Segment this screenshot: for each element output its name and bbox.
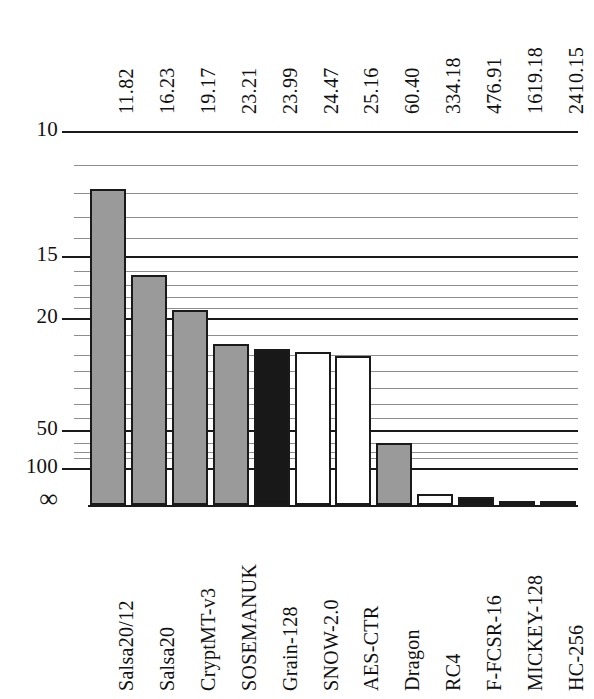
y-axis-tick-mark: [74, 355, 88, 356]
y-axis-tick-label: ∞: [2, 488, 58, 509]
bar: [458, 497, 494, 505]
y-axis-tick-mark: [62, 468, 88, 470]
bar: [376, 443, 412, 505]
y-axis-tick-label: 10: [2, 119, 58, 140]
y-axis-tick-mark: [74, 297, 88, 298]
y-axis-tick-mark: [74, 404, 88, 405]
y-axis-tick-mark: [74, 271, 88, 272]
y-axis-tick-label: 50: [2, 418, 58, 439]
y-axis-tick-mark: [62, 430, 88, 432]
y-axis-tick-mark: [62, 318, 88, 320]
y-axis-tick-mark: [74, 238, 88, 239]
y-axis-tick-mark: [74, 165, 88, 166]
gridline-minor: [88, 271, 578, 272]
y-axis-tick-mark: [74, 452, 88, 453]
gridline-minor: [88, 193, 578, 194]
y-axis-tick-mark: [62, 256, 88, 258]
y-axis-tick-mark: [74, 308, 88, 309]
y-axis-tick-mark: [74, 371, 88, 372]
y-axis-tick-label: 20: [2, 306, 58, 327]
bar: [172, 310, 208, 505]
chart-figure: 10152050100∞ 11.8216.2319.1723.2123.9924…: [0, 0, 594, 699]
gridline-minor: [88, 238, 578, 239]
y-axis-tick-mark: [74, 388, 88, 389]
y-axis-tick-mark: [74, 443, 88, 444]
y-axis-tick-mark: [74, 193, 88, 194]
gridline-minor: [88, 165, 578, 166]
bar: [295, 352, 331, 505]
bar: [90, 189, 126, 505]
y-axis-tick-mark: [74, 335, 88, 336]
y-axis-tick-mark: [74, 217, 88, 218]
y-axis-tick-mark: [62, 131, 88, 133]
plot-area: [88, 131, 578, 505]
gridline-major: [88, 131, 578, 133]
gridline-major: [88, 256, 578, 258]
bar: [417, 494, 453, 505]
y-axis-tick-mark: [74, 418, 88, 419]
bar: [131, 275, 167, 505]
gridline-minor: [88, 217, 578, 218]
bar: [335, 356, 371, 505]
y-axis-tick-label: 100: [2, 456, 58, 477]
bar: [254, 349, 290, 505]
y-axis-tick-label: 15: [2, 244, 58, 265]
bar: [213, 344, 249, 505]
x-axis-line: [88, 505, 578, 507]
y-axis-tick-mark: [74, 458, 88, 459]
y-axis-tick-mark: [74, 285, 88, 286]
